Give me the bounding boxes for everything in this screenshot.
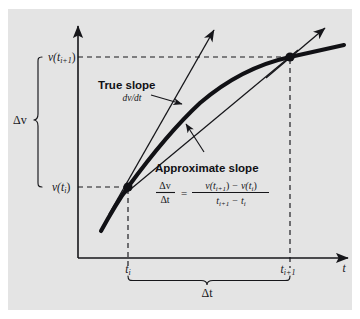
y-tick-lower-tail: )	[66, 181, 70, 194]
horizontal-brace-deltat-icon	[128, 276, 290, 285]
formula-rhs-num-a: v(t	[205, 180, 216, 192]
annotation-true-slope-expression: dv/dt	[123, 93, 142, 103]
formula-lhs-denominator: Δt	[160, 194, 169, 205]
brace-delta-t-text: Δt	[201, 286, 213, 300]
formula-equals-sign: =	[181, 187, 187, 199]
formula-rhs-num-a-tail: )	[226, 180, 229, 192]
formula-rhs-den-b-sub: i	[244, 200, 246, 208]
formula-rhs-num-a-sub: i+1	[216, 185, 226, 193]
data-point-ti1	[285, 52, 294, 61]
formula-rhs-den-a-sub: i+1	[219, 200, 229, 208]
derivative-approximation-diagram: v(ti+1) v(ti) ti ti+1 t Δv Δt True slope…	[0, 0, 360, 319]
formula-rhs-den-minus: −	[232, 195, 238, 206]
pointer-arrow-approximate-slope	[186, 124, 204, 152]
x-tick-ti-sub: i	[128, 268, 130, 277]
brace-label-delta-t: Δt	[201, 286, 213, 300]
y-tick-upper-sub: i+1	[60, 56, 72, 65]
brace-delta-v-text: Δv	[13, 113, 27, 127]
secant-line	[120, 50, 298, 198]
pointer-arrow-true-slope	[151, 95, 182, 104]
formula-rhs-numerator: v(ti+1)−v(ti)	[205, 180, 257, 193]
annotation-true-slope-title: True slope	[98, 79, 156, 91]
x-tick-ti1-sub: i+1	[284, 268, 296, 277]
formula-rhs-num-minus: −	[232, 180, 238, 191]
formula-rhs-num-b-tail: )	[253, 180, 256, 192]
brace-label-delta-v: Δv	[13, 113, 27, 127]
y-tick-label-upper: v(ti+1)	[48, 51, 76, 65]
vertical-brace-deltav-icon	[34, 57, 43, 187]
y-tick-lower-v: v(t	[52, 181, 65, 194]
y-tick-upper-tail: )	[72, 51, 76, 64]
y-tick-upper-v: v(t	[48, 51, 61, 64]
annotation-approximate-slope-formula: Δv Δt = v(ti+1)−v(ti) ti+1−ti	[156, 180, 269, 208]
x-tick-label-ti1: ti+1	[281, 263, 296, 277]
x-axis-label: t	[342, 262, 346, 274]
figure-container: v(ti+1) v(ti) ti ti+1 t Δv Δt True slope…	[0, 0, 360, 319]
formula-rhs-num-b: v(t	[241, 180, 252, 192]
formula-lhs-numerator: Δv	[159, 180, 170, 191]
formula-rhs-denominator: ti+1−ti	[216, 195, 245, 208]
y-tick-label-lower: v(ti)	[52, 181, 70, 195]
annotation-approximate-slope-title: Approximate slope	[155, 162, 259, 174]
data-point-ti	[123, 182, 132, 191]
axes-group	[78, 26, 348, 258]
x-tick-label-ti: ti	[125, 263, 130, 277]
